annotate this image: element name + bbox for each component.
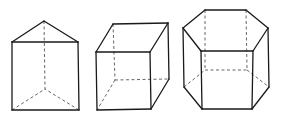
hexagonal-prism bbox=[183, 10, 269, 109]
visible-edge bbox=[96, 52, 97, 110]
visible-edge bbox=[184, 87, 202, 109]
visible-edge bbox=[78, 42, 79, 110]
visible-edge bbox=[113, 23, 168, 24]
prisms-diagram bbox=[0, 0, 282, 120]
visible-edge bbox=[44, 21, 78, 42]
visible-edge bbox=[252, 51, 253, 109]
visible-edge bbox=[268, 28, 269, 87]
hidden-edge bbox=[247, 70, 269, 87]
visible-edge bbox=[253, 28, 268, 51]
visible-edge bbox=[168, 23, 169, 79]
visible-edge bbox=[183, 10, 205, 28]
visible-edge bbox=[246, 10, 268, 28]
hidden-edge bbox=[45, 89, 79, 110]
visible-edge bbox=[252, 87, 269, 109]
hidden-edge bbox=[12, 89, 45, 110]
visible-edge bbox=[150, 23, 168, 52]
visible-edge bbox=[151, 79, 169, 109]
visible-edge bbox=[12, 21, 44, 42]
hidden-edge bbox=[115, 79, 169, 80]
visible-edge bbox=[201, 51, 202, 109]
hidden-edge bbox=[246, 10, 247, 70]
visible-edge bbox=[183, 28, 201, 51]
visible-edge bbox=[150, 52, 151, 109]
hidden-edge bbox=[44, 21, 45, 89]
visible-edge bbox=[97, 109, 151, 110]
triangular-prism bbox=[12, 21, 79, 110]
cube bbox=[96, 23, 169, 110]
visible-edge bbox=[183, 28, 184, 87]
hidden-edge bbox=[97, 80, 115, 110]
visible-edge bbox=[96, 24, 113, 52]
